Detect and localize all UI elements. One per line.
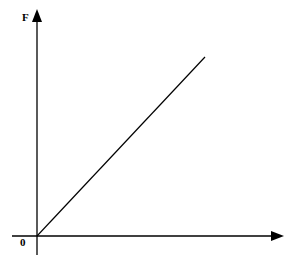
- proportional-line: [37, 57, 205, 236]
- y-axis-arrow-icon: [32, 9, 42, 22]
- y-axis-label: F: [22, 11, 29, 23]
- x-axis-arrow-icon: [271, 231, 284, 241]
- force-diagram: F 0: [0, 0, 291, 268]
- origin-label: 0: [20, 236, 26, 248]
